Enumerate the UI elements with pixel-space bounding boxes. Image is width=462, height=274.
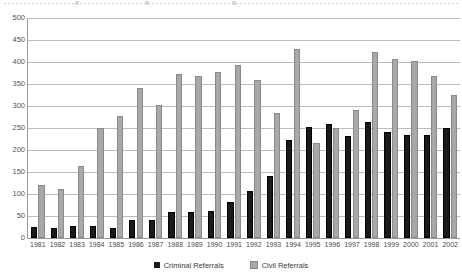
bar-civil-1992 <box>254 80 260 238</box>
header-tick <box>232 1 236 5</box>
bar-group <box>224 18 244 238</box>
bar-group <box>185 18 205 238</box>
x-axis-tick-label: 1993 <box>264 240 284 249</box>
y-axis-tick-label: 450 <box>3 36 25 44</box>
bar-group <box>244 18 264 238</box>
bar-civil-1984 <box>97 128 103 238</box>
bar-criminal-1982 <box>51 228 57 238</box>
legend-label-criminal: Criminal Referrals <box>164 261 224 270</box>
bar-group <box>303 18 323 238</box>
y-axis-tick-label: 350 <box>3 80 25 88</box>
bar-group <box>87 18 107 238</box>
x-axis-tick-label: 1987 <box>146 240 166 249</box>
x-axis-tick-label: 1982 <box>48 240 68 249</box>
legend-label-civil: Civil Referrals <box>262 261 309 270</box>
y-axis-tick-label: 50 <box>3 212 25 220</box>
bar-criminal-1987 <box>149 220 155 238</box>
bar-group <box>342 18 362 238</box>
bar-criminal-1986 <box>129 220 135 238</box>
y-axis-tick-label: 150 <box>3 168 25 176</box>
bar-criminal-1985 <box>110 228 116 238</box>
y-axis-tick-label: 250 <box>3 124 25 132</box>
x-axis-tick-label: 2001 <box>421 240 441 249</box>
bar-group <box>67 18 87 238</box>
y-axis-tick-label: 300 <box>3 102 25 110</box>
bar-criminal-1993 <box>267 176 273 238</box>
bar-criminal-1983 <box>70 226 76 238</box>
x-axis-tick-label: 1994 <box>283 240 303 249</box>
bar-civil-2002 <box>451 95 457 238</box>
header-tick <box>145 1 149 5</box>
y-axis-tick-label: 100 <box>3 190 25 198</box>
bar-group <box>283 18 303 238</box>
clipped-header-strip <box>0 0 462 7</box>
bar-civil-1986 <box>137 88 143 238</box>
x-axis-tick-label: 1991 <box>224 240 244 249</box>
x-axis-tick-label: 1989 <box>185 240 205 249</box>
bar-civil-1983 <box>78 166 84 238</box>
bar-civil-1987 <box>156 105 162 238</box>
bar-civil-1985 <box>117 116 123 238</box>
y-axis-tick-label: 200 <box>3 146 25 154</box>
x-axis-tick-label: 1996 <box>323 240 343 249</box>
y-axis-tick-label: 0 <box>3 234 25 242</box>
bar-civil-1999 <box>392 59 398 238</box>
bar-civil-1995 <box>313 143 319 238</box>
bar-group <box>48 18 68 238</box>
bar-group <box>126 18 146 238</box>
bar-criminal-1996 <box>326 124 332 238</box>
bar-series-container <box>28 18 459 238</box>
bar-group <box>165 18 185 238</box>
x-axis-labels: 1981198219831984198519861987198819891990… <box>28 240 459 252</box>
bar-criminal-1995 <box>306 127 312 238</box>
bar-criminal-1999 <box>384 132 390 238</box>
bar-group <box>362 18 382 238</box>
x-axis-tick-label: 1983 <box>67 240 87 249</box>
x-axis-tick-label: 1990 <box>205 240 225 249</box>
bar-chart: 050100150200250300350400450500 198119821… <box>0 0 462 274</box>
bar-civil-1988 <box>176 74 182 238</box>
bar-group <box>146 18 166 238</box>
bar-criminal-1994 <box>286 140 292 238</box>
bar-civil-1991 <box>235 65 241 238</box>
bar-civil-2000 <box>411 61 417 238</box>
x-axis-tick-label: 1984 <box>87 240 107 249</box>
bar-criminal-1997 <box>345 136 351 238</box>
civil-swatch-icon <box>250 261 258 269</box>
bar-group <box>205 18 225 238</box>
y-axis-labels: 050100150200250300350400450500 <box>0 0 25 274</box>
x-axis-tick-label: 1995 <box>303 240 323 249</box>
bar-civil-1998 <box>372 52 378 238</box>
x-axis-tick-label: 1985 <box>107 240 127 249</box>
bar-group <box>401 18 421 238</box>
x-axis-tick-label: 2002 <box>440 240 460 249</box>
bar-criminal-1998 <box>365 122 371 238</box>
legend-item-civil[interactable]: Civil Referrals <box>250 261 309 270</box>
bar-civil-1993 <box>274 113 280 238</box>
bar-group <box>421 18 441 238</box>
x-axis-tick-label: 1999 <box>381 240 401 249</box>
bar-civil-1981 <box>38 185 44 238</box>
bar-criminal-2002 <box>443 128 449 238</box>
header-tick <box>75 1 79 5</box>
x-axis-tick-label: 1986 <box>126 240 146 249</box>
x-axis-tick-label: 1981 <box>28 240 48 249</box>
bar-group <box>381 18 401 238</box>
bar-civil-1994 <box>294 49 300 238</box>
legend-item-criminal[interactable]: Criminal Referrals <box>154 261 224 270</box>
bar-criminal-2001 <box>424 135 430 238</box>
bar-civil-2001 <box>431 76 437 238</box>
bar-criminal-1989 <box>188 212 194 238</box>
bar-criminal-1981 <box>31 227 37 238</box>
bar-group <box>323 18 343 238</box>
x-axis-tick-label: 2000 <box>401 240 421 249</box>
x-axis-tick-label: 1992 <box>244 240 264 249</box>
header-rule <box>4 3 458 4</box>
bar-group <box>440 18 460 238</box>
y-axis-tick-label: 400 <box>3 58 25 66</box>
y-axis-tick-label: 500 <box>3 14 25 22</box>
bar-group <box>264 18 284 238</box>
x-axis-tick-label: 1997 <box>342 240 362 249</box>
bar-criminal-1984 <box>90 226 96 238</box>
bar-civil-1997 <box>353 110 359 238</box>
